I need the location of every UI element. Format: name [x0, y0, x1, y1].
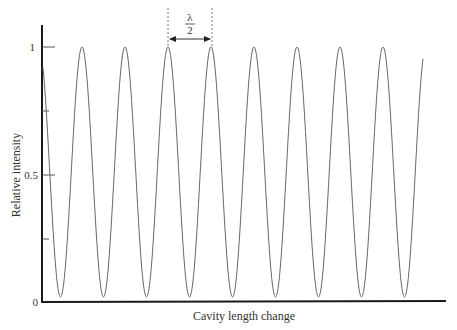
y-tick-label-0: 0: [33, 296, 39, 308]
y-axis-label: Relative intensity: [9, 133, 23, 217]
x-axis: [41, 301, 446, 302]
x-axis-label: Cavity length change: [193, 309, 295, 323]
y-tick-label-1: 1: [30, 41, 36, 53]
arrow-head-right-icon: [204, 36, 211, 42]
annotation-two: 2: [187, 24, 193, 36]
intensity-curve: [43, 47, 423, 297]
annotation-lambda: λ: [187, 11, 193, 23]
arrow-head-left-icon: [169, 36, 176, 42]
chart-canvas: 1 0.5 0 Relative intensity Cavity length…: [0, 0, 457, 330]
y-tick-label-05: 0.5: [24, 169, 38, 181]
